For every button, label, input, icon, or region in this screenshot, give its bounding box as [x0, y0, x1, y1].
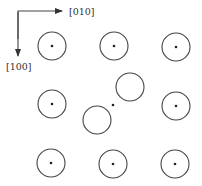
- lattice-site-dot: [51, 45, 54, 48]
- lattice-site-dot: [50, 162, 53, 165]
- lattice-site-dot: [174, 163, 177, 166]
- lattice-site-dot: [51, 103, 54, 106]
- split-interstitial-diagram: [010] [100]: [0, 0, 202, 186]
- lattice-site-dot: [112, 163, 115, 166]
- split-interstitial: [83, 73, 144, 134]
- axis-100-label: [100]: [6, 61, 32, 72]
- lattice-row-2: [38, 73, 190, 134]
- lattice-row-3: [37, 149, 189, 178]
- vacant-lattice-site-dot: [112, 104, 115, 107]
- lattice-row-1: [38, 32, 190, 61]
- lattice-site-dot: [113, 45, 116, 48]
- axis-010-arrow: [18, 11, 62, 39]
- axis-010-label: [010]: [69, 6, 95, 17]
- lattice-site-dot: [175, 46, 178, 49]
- displaced-atom-lower: [83, 106, 111, 134]
- displaced-atom-upper: [116, 73, 144, 101]
- axis-indicator: [010] [100]: [6, 6, 95, 72]
- lattice-site-dot: [175, 105, 178, 108]
